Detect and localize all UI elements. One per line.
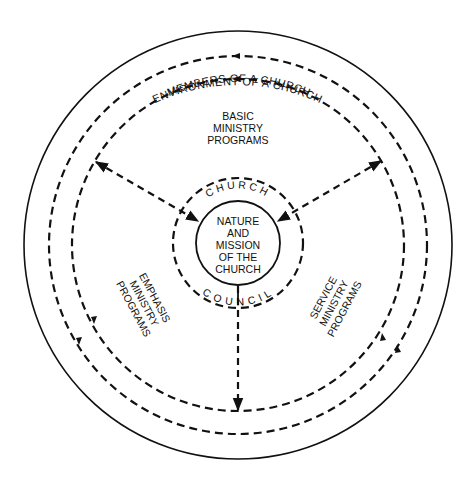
connector-service-basic	[278, 161, 381, 221]
center-line: MISSION	[216, 239, 260, 251]
arrow-down-icon	[91, 316, 97, 324]
center-line: AND	[227, 227, 250, 239]
arrow-down-icon	[76, 337, 82, 345]
service-ministry-label: SERVICE MINISTRY PROGRAMS	[303, 268, 364, 339]
basic-ministry-label: BASIC MINISTRY PROGRAMS	[207, 110, 268, 146]
sector-line: BASIC	[222, 110, 254, 122]
arrow-up-icon	[380, 333, 386, 341]
center-line: CHURCH	[215, 263, 261, 275]
center-line: NATURE	[217, 215, 259, 227]
center-text: NATURE AND MISSION OF THE CHURCH	[215, 215, 261, 275]
council-top-label: CHURCH	[203, 178, 273, 199]
sector-line: PROGRAMS	[207, 134, 268, 146]
church-ministry-diagram: ENVIRONMENT OF A CHURCH MEMBERS OF A CHU…	[0, 0, 476, 490]
connector-emphasis-basic	[96, 162, 198, 221]
center-line: OF THE	[219, 251, 257, 263]
arrow-left-icon	[232, 53, 240, 59]
sector-line: MINISTRY	[213, 122, 263, 134]
emphasis-ministry-label: EMPHASIS MINISTRY PROGRAMS	[114, 268, 175, 339]
